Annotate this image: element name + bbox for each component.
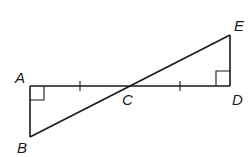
right-angle-marker-d [216,71,230,86]
right-angle-marker-a [30,86,44,100]
label-c: C [122,91,133,108]
label-e: E [234,17,245,34]
geometry-diagram: A B C D E [0,0,252,157]
label-b: B [17,139,27,156]
label-d: D [232,91,243,108]
label-a: A [14,69,25,86]
